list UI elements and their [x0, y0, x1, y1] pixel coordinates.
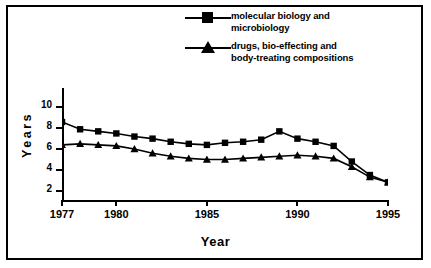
square-marker	[240, 139, 246, 145]
square-marker	[95, 128, 101, 134]
square-marker	[113, 130, 119, 136]
plot-area	[62, 96, 388, 200]
x-tick: 1985	[206, 200, 208, 206]
y-tick-label: 4	[46, 162, 52, 173]
legend-item-molecular-biology: molecular biology and microbiology	[185, 10, 415, 33]
square-marker	[77, 126, 83, 132]
square-marker	[185, 11, 231, 25]
x-tick: 1980	[115, 200, 117, 206]
square-marker	[258, 136, 264, 142]
y-tick-label: 6	[46, 141, 52, 152]
legend-label-line1: drugs, bio-effecting and	[231, 40, 337, 51]
x-tick-label: 1980	[104, 208, 128, 220]
legend-item-drugs: drugs, bio-effecting and body-treating c…	[185, 40, 415, 63]
y-tick-label: 2	[46, 183, 52, 194]
square-marker	[167, 139, 173, 145]
square-marker	[186, 141, 192, 147]
x-tick: 1990	[296, 200, 298, 206]
series-layer	[62, 96, 388, 200]
square-marker	[131, 133, 137, 139]
y-tick-label: 10	[41, 99, 52, 110]
square-marker	[204, 142, 210, 148]
y-axis-title: Years	[20, 112, 34, 158]
chart-legend: molecular biology and microbiology drugs…	[185, 10, 415, 70]
legend-label-line1: molecular biology and	[231, 10, 330, 21]
x-axis-line: 19771980198519901995	[62, 200, 388, 202]
x-tick-label: 1995	[376, 208, 400, 220]
square-marker	[276, 128, 282, 134]
legend-label-molecular-biology: molecular biology and microbiology	[231, 10, 330, 33]
y-tick-label: 8	[46, 120, 52, 131]
x-tick-label: 1990	[285, 208, 309, 220]
x-tick: 1977	[61, 200, 63, 206]
square-marker	[62, 119, 65, 125]
square-marker	[149, 135, 155, 141]
x-tick: 1995	[387, 200, 389, 206]
legend-label-line2: body-treating compositions	[231, 52, 354, 63]
triangle-marker	[185, 41, 231, 55]
square-marker	[330, 143, 336, 149]
square-marker	[222, 140, 228, 146]
x-axis-title: Year	[0, 234, 431, 249]
square-marker	[312, 139, 318, 145]
square-marker	[294, 135, 300, 141]
x-tick-label: 1977	[50, 208, 74, 220]
legend-label-drugs: drugs, bio-effecting and body-treating c…	[231, 40, 354, 63]
legend-label-line2: microbiology	[231, 22, 289, 33]
chart-figure: molecular biology and microbiology drugs…	[0, 0, 431, 268]
x-tick-label: 1985	[195, 208, 219, 220]
series-line	[62, 122, 388, 182]
